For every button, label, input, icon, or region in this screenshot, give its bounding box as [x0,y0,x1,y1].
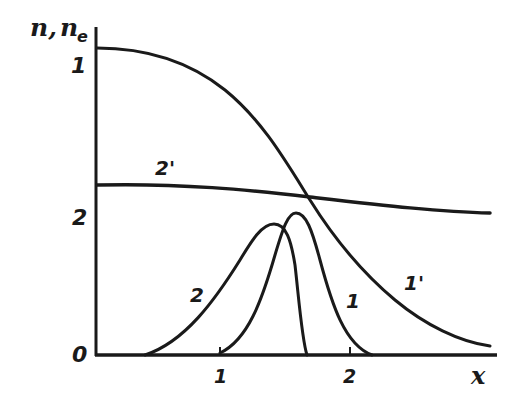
x-tick-label-1: 1 [214,365,227,387]
x-axis-label: x [470,361,486,390]
y-tick-label-0: 0 [72,342,87,367]
curve-label-1-prime: 1' [404,271,424,295]
curve-1-prime [97,48,490,346]
y-axis-label: n, n e [30,13,88,46]
curve-label-2: 2 [190,283,204,307]
x-tick-label-2: 2 [343,365,356,387]
y-tick-label-2: 2 [72,205,87,230]
curve-label-1: 1 [346,289,360,313]
svg-text:n,: n, [30,13,57,42]
chart: n, n e 1 2 0 1 2 x 2' 2 1 1' [0,0,521,400]
curve-2 [145,224,307,355]
curve-label-2-prime: 2' [155,156,175,180]
y-tick-label-1: 1 [71,53,86,78]
svg-text:e: e [77,27,88,46]
svg-text:n: n [60,13,78,42]
curve-2-prime [97,185,490,213]
